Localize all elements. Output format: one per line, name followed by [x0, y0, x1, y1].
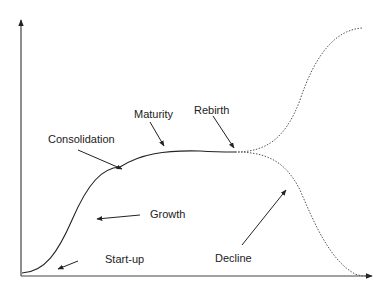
rebirth-curve	[235, 28, 362, 152]
startup-arrow	[58, 261, 78, 269]
label-maturity: Maturity	[134, 108, 173, 120]
lifecycle-diagram	[0, 0, 384, 295]
consolidation-arrow	[78, 150, 122, 169]
label-startup: Start-up	[105, 253, 144, 265]
label-consolidation: Consolidation	[48, 133, 115, 145]
label-rebirth: Rebirth	[194, 104, 229, 116]
label-decline: Decline	[215, 252, 252, 264]
growth-arrow	[97, 215, 140, 219]
decline-curve	[235, 152, 368, 276]
rebirth-arrow	[213, 116, 234, 148]
maturity-arrow	[150, 122, 164, 146]
label-growth: Growth	[150, 208, 185, 220]
decline-arrow	[242, 190, 286, 245]
